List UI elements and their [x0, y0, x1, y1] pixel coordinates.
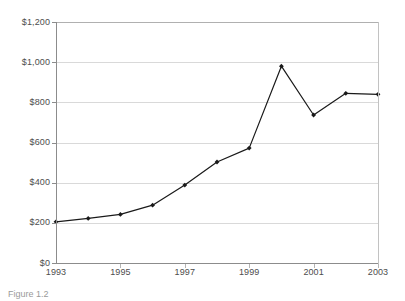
- x-axis-tick-label: 1993: [46, 268, 66, 277]
- figure-container: $0$200$400$600$800$1,000$1,200 199319951…: [0, 0, 405, 301]
- y-axis-line: [56, 22, 57, 264]
- y-axis-tick-label: $400: [4, 178, 50, 187]
- y-axis-tick-mark: [52, 62, 56, 63]
- y-axis-tick-label: $600: [4, 138, 50, 147]
- x-axis-tick-label: 1995: [110, 268, 130, 277]
- y-axis-tick-mark: [52, 183, 56, 184]
- data-point-marker: [247, 146, 252, 151]
- y-axis-tick-mark: [52, 263, 56, 264]
- data-point-marker: [86, 216, 91, 221]
- y-axis-tick-mark: [52, 223, 56, 224]
- series-line: [56, 66, 378, 222]
- line-chart: $0$200$400$600$800$1,000$1,200 199319951…: [0, 0, 405, 276]
- y-axis-tick-labels: $0$200$400$600$800$1,000$1,200: [0, 0, 50, 276]
- data-point-marker: [118, 212, 123, 217]
- x-axis-tick-mark: [314, 264, 315, 268]
- y-axis-tick-label: $0: [4, 259, 50, 268]
- series-line-group: [56, 22, 378, 263]
- y-axis-tick-mark: [52, 22, 56, 23]
- x-axis-tick-label: 1999: [239, 268, 259, 277]
- y-axis-tick-mark: [52, 102, 56, 103]
- figure-caption: Figure 1.2: [8, 289, 49, 300]
- x-axis-tick-mark: [378, 264, 379, 268]
- x-axis-tick-mark: [185, 264, 186, 268]
- y-axis-tick-mark: [52, 143, 56, 144]
- x-axis-tick-label: 1997: [175, 268, 195, 277]
- y-axis-tick-label: $200: [4, 218, 50, 227]
- plot-area: [56, 22, 378, 263]
- x-axis-tick-mark: [120, 264, 121, 268]
- x-axis-tick-label: 2001: [303, 268, 323, 277]
- x-axis-tick-mark: [249, 264, 250, 268]
- y-axis-tick-label: $800: [4, 98, 50, 107]
- y-axis-tick-label: $1,200: [4, 18, 50, 27]
- x-axis-tick-label: 2003: [368, 268, 388, 277]
- x-axis-line: [56, 263, 379, 264]
- y-axis-tick-label: $1,000: [4, 58, 50, 67]
- plot-right-border: [378, 22, 379, 264]
